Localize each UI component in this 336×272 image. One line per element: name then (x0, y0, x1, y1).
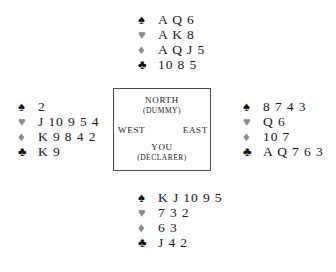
hand-south-spades-row: ♠ K J 10 9 5 (138, 190, 223, 205)
hand-south-diamonds: 6 3 (152, 220, 178, 235)
hand-north: ♠ A Q 6 ♥ A K 8 ♦ A Q J 5 ♣ 10 8 5 (138, 12, 205, 72)
club-icon: ♣ (243, 144, 257, 159)
hand-north-spades: A Q 6 (152, 12, 195, 27)
club-icon: ♣ (18, 144, 32, 159)
diamond-icon: ♦ (138, 220, 152, 235)
hand-west-diamonds-row: ♦ K 9 8 4 2 (18, 129, 100, 144)
hand-west-hearts: J 10 9 5 4 (32, 114, 100, 129)
compass-north-label: NORTH (114, 95, 210, 106)
diamond-icon: ♦ (18, 129, 32, 144)
compass-south-sublabel: (DECLARER) (114, 153, 210, 163)
spade-icon: ♠ (138, 12, 152, 27)
heart-icon: ♥ (138, 27, 152, 42)
hand-east-clubs: A Q 7 6 3 (257, 144, 324, 159)
hand-east-hearts: Q 6 (257, 114, 286, 129)
hand-east-diamonds-row: ♦ 10 7 (243, 129, 324, 144)
spade-icon: ♠ (18, 99, 32, 114)
hand-south-clubs: J 4 2 (152, 235, 188, 250)
compass-south: YOU (DECLARER) (114, 142, 210, 163)
compass-east-label: EAST (166, 125, 208, 136)
hand-east-clubs-row: ♣ A Q 7 6 3 (243, 144, 324, 159)
compass-west: WEST (118, 125, 158, 136)
diamond-icon: ♦ (243, 129, 257, 144)
hand-south-hearts-row: ♥ 7 3 2 (138, 205, 223, 220)
hand-west-clubs-row: ♣ K 9 (18, 144, 100, 159)
spade-icon: ♠ (243, 99, 257, 114)
bridge-hand-diagram: ♠ A Q 6 ♥ A K 8 ♦ A Q J 5 ♣ 10 8 5 ♠ 2 ♥… (0, 0, 336, 272)
compass-west-label: WEST (118, 125, 158, 136)
hand-west-spades: 2 (32, 99, 46, 114)
hand-south: ♠ K J 10 9 5 ♥ 7 3 2 ♦ 6 3 ♣ J 4 2 (138, 190, 223, 250)
hand-south-hearts: 7 3 2 (152, 205, 190, 220)
spade-icon: ♠ (138, 190, 152, 205)
compass-box: NORTH (DUMMY) WEST EAST YOU (DECLARER) (113, 88, 211, 171)
compass-north: NORTH (DUMMY) (114, 95, 210, 116)
heart-icon: ♥ (243, 114, 257, 129)
compass-south-label: YOU (114, 142, 210, 153)
hand-south-spades: K J 10 9 5 (152, 190, 223, 205)
heart-icon: ♥ (18, 114, 32, 129)
hand-north-diamonds: A Q J 5 (152, 42, 205, 57)
hand-north-spades-row: ♠ A Q 6 (138, 12, 205, 27)
heart-icon: ♥ (138, 205, 152, 220)
hand-west-spades-row: ♠ 2 (18, 99, 100, 114)
hand-west-clubs: K 9 (32, 144, 61, 159)
hand-north-hearts-row: ♥ A K 8 (138, 27, 205, 42)
diamond-icon: ♦ (138, 42, 152, 57)
hand-north-clubs-row: ♣ 10 8 5 (138, 57, 205, 72)
hand-north-diamonds-row: ♦ A Q J 5 (138, 42, 205, 57)
club-icon: ♣ (138, 57, 152, 72)
hand-south-diamonds-row: ♦ 6 3 (138, 220, 223, 235)
hand-east-spades: 8 7 4 3 (257, 99, 306, 114)
hand-east: ♠ 8 7 4 3 ♥ Q 6 ♦ 10 7 ♣ A Q 7 6 3 (243, 99, 324, 159)
club-icon: ♣ (138, 235, 152, 250)
compass-north-sublabel: (DUMMY) (114, 106, 210, 116)
hand-west-hearts-row: ♥ J 10 9 5 4 (18, 114, 100, 129)
hand-north-hearts: A K 8 (152, 27, 195, 42)
hand-east-spades-row: ♠ 8 7 4 3 (243, 99, 324, 114)
hand-east-diamonds: 10 7 (257, 129, 290, 144)
hand-west: ♠ 2 ♥ J 10 9 5 4 ♦ K 9 8 4 2 ♣ K 9 (18, 99, 100, 159)
hand-west-diamonds: K 9 8 4 2 (32, 129, 96, 144)
hand-north-clubs: 10 8 5 (152, 57, 197, 72)
hand-east-hearts-row: ♥ Q 6 (243, 114, 324, 129)
hand-south-clubs-row: ♣ J 4 2 (138, 235, 223, 250)
compass-east: EAST (166, 125, 208, 136)
